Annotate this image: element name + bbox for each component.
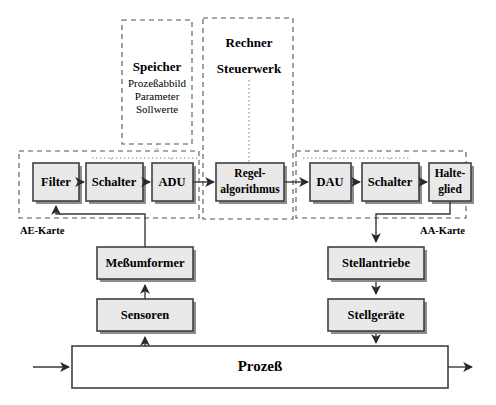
stellgeraete-label: Stellgeräte [348,308,405,322]
block-dau[interactable]: DAU [310,163,354,204]
adu-label: ADU [158,175,185,189]
rechner-title: Rechner [226,35,273,50]
filter-label: Filter [41,175,71,189]
block-schalter-out[interactable]: Schalter [362,163,422,204]
block-schalter-in[interactable]: Schalter [86,163,146,204]
prozess-label: Prozeß [238,358,283,374]
arrow-messumformer-to-filter [56,206,145,247]
block-filter[interactable]: Filter [33,163,82,204]
speicher-line-2: Parameter [135,90,180,102]
dau-label: DAU [316,175,343,189]
block-adu[interactable]: ADU [152,163,196,204]
sensoren-label: Sensoren [121,308,169,322]
speicher-line-1: Prozeßabbild [128,77,187,89]
vertical-flow-arrows [33,201,472,367]
block-sensoren[interactable]: Sensoren [97,299,196,334]
speicher-line-3: Sollwerte [136,103,178,115]
ae-karte-label: AE-Karte [20,225,65,236]
block-messumformer[interactable]: Meßumformer [97,247,196,282]
regelalgorithmus-label-2: algorithmus [220,183,280,196]
group-speicher: Speicher Prozeßabbild Parameter Sollwert… [122,20,192,144]
regelalgorithmus-label-1: Regel- [234,167,265,180]
block-prozess[interactable]: Prozeß [72,346,448,388]
messumformer-label: Meßumformer [105,256,185,270]
halteglied-label-1: Halte- [435,167,466,179]
schalter-out-label: Schalter [368,175,413,189]
block-stellantriebe[interactable]: Stellantriebe [328,247,427,282]
stellantriebe-label: Stellantriebe [342,256,410,270]
process-control-diagram: Speicher Prozeßabbild Parameter Sollwert… [0,0,496,405]
diagram-canvas: Speicher Prozeßabbild Parameter Sollwert… [0,0,496,405]
block-halteglied[interactable]: Halte- glied [429,163,474,204]
block-regelalgorithmus[interactable]: Regel- algorithmus [216,163,287,204]
aa-karte-label: AA-Karte [420,225,465,236]
block-stellgeraete[interactable]: Stellgeräte [328,299,427,334]
speicher-title: Speicher [133,59,182,74]
halteglied-label-2: glied [438,183,462,196]
rechner-subtitle: Steuerwerk [217,61,282,76]
schalter-in-label: Schalter [92,175,137,189]
